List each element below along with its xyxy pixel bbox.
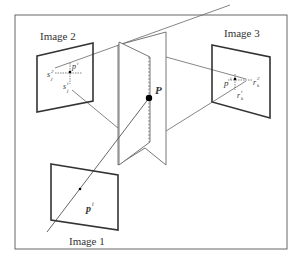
ray-image2-to-plane: [72, 90, 118, 128]
image1-label: Image 1: [69, 235, 105, 247]
image1-p-label: p: [85, 203, 91, 214]
image2-s2-sub: j: [50, 76, 53, 81]
image3-r2-sub: k: [257, 83, 260, 88]
image1-point: [79, 188, 82, 191]
image3-plane: [212, 45, 270, 118]
image2-point: [69, 71, 72, 74]
image2-si-sup: i: [67, 81, 69, 86]
image2-p-label: p: [71, 62, 76, 71]
ray-image1-to-P: [47, 98, 149, 232]
ray-image3-top: [166, 57, 246, 79]
image2-si-sub: j: [66, 88, 69, 93]
image1-plane: [51, 164, 118, 230]
image3-label: Image 3: [224, 27, 260, 39]
world-point-P: [146, 95, 152, 101]
image2-label: Image 2: [40, 30, 76, 42]
image3-r2-sup: 2: [257, 76, 260, 81]
image3-ri-sub: k: [241, 96, 244, 101]
image2-s2-label: s: [47, 70, 50, 79]
image2-plane: [37, 43, 93, 112]
image2-s2-sup: 2: [51, 69, 54, 74]
image3-point: [234, 78, 237, 81]
image3-ri-sup: i: [241, 89, 243, 94]
image2-p-sup: i: [77, 61, 79, 66]
world-point-label: P: [155, 84, 162, 96]
ray-image3-bottom: [166, 81, 246, 131]
diagram-canvas: Image 2 Image 3 Image 1 P p i s 2 j s i …: [0, 0, 303, 260]
image1-p-sup: i: [92, 201, 94, 207]
image2-si-label: s: [63, 82, 66, 91]
image3-p-label: p: [223, 78, 229, 88]
